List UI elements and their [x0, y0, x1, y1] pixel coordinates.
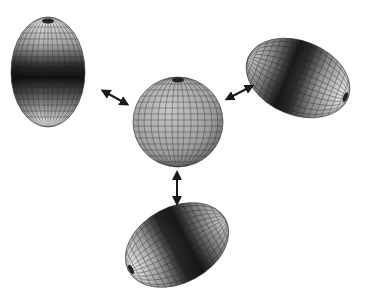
- ellipsoid-upper-right: [234, 23, 362, 132]
- sphere-center: [133, 77, 223, 167]
- deformation-diagram: [0, 0, 368, 305]
- ellipsoid-bottom: [111, 186, 244, 305]
- double-arrow-left-icon: [105, 92, 125, 103]
- ellipsoid-vertical: [11, 17, 85, 127]
- double-arrow-right-icon: [229, 87, 250, 98]
